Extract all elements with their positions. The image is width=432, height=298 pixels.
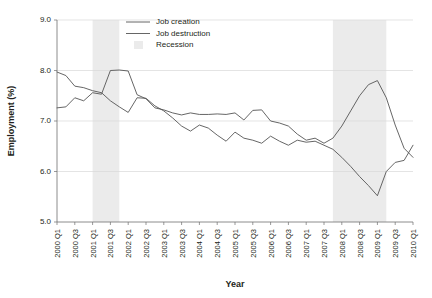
x-tick-label: 2006 Q3 xyxy=(284,229,293,258)
legend: Job creationJob destructionRecession xyxy=(126,17,210,49)
x-tick-label: 2003 Q3 xyxy=(178,229,187,258)
y-tick-label: 9.0 xyxy=(40,15,52,24)
y-tick-label: 7.0 xyxy=(40,116,52,125)
x-tick-label: 2007 Q3 xyxy=(320,229,329,258)
x-tick-label: 2000 Q1 xyxy=(53,229,62,258)
employment-line-chart: 5.06.07.08.09.0 2000 Q12000 Q32001 Q1200… xyxy=(0,0,432,298)
x-tick-label: 2010 Q1 xyxy=(409,229,418,258)
x-tick-label: 2002 Q1 xyxy=(124,229,133,258)
x-tick-label: 2008 Q3 xyxy=(356,229,365,258)
x-tick-label: 2009 Q1 xyxy=(373,229,382,258)
x-tick-label: 2009 Q3 xyxy=(391,229,400,258)
x-tick-label: 2001 Q3 xyxy=(106,229,115,258)
x-tick-label: 2006 Q1 xyxy=(267,229,276,258)
legend-swatch-recession xyxy=(134,41,143,49)
y-tick-label: 6.0 xyxy=(40,167,52,176)
x-tick-label: 2002 Q3 xyxy=(142,229,151,258)
x-tick-label: 2001 Q1 xyxy=(89,229,98,258)
x-tick-label: 2003 Q1 xyxy=(160,229,169,258)
x-tick-label: 2007 Q1 xyxy=(302,229,311,258)
legend-label: Recession xyxy=(156,40,193,49)
chart-svg: 5.06.07.08.09.0 2000 Q12000 Q32001 Q1200… xyxy=(0,0,432,298)
x-tick-label: 2004 Q1 xyxy=(195,229,204,258)
x-tick-label: 2000 Q3 xyxy=(71,229,80,258)
legend-label: Job creation xyxy=(156,17,200,26)
x-axis-title: Year xyxy=(225,279,245,289)
y-tick-label: 8.0 xyxy=(40,66,52,75)
x-tick-label: 2004 Q3 xyxy=(213,229,222,258)
x-tick-group: 2000 Q12000 Q32001 Q12001 Q32002 Q12002 … xyxy=(53,222,418,258)
x-tick-label: 2005 Q3 xyxy=(249,229,258,258)
x-tick-label: 2005 Q1 xyxy=(231,229,240,258)
x-tick-label: 2008 Q1 xyxy=(338,229,347,258)
legend-label: Job destruction xyxy=(156,29,210,38)
y-tick-label: 5.0 xyxy=(40,217,52,226)
y-axis-title: Employment (%) xyxy=(6,86,16,157)
y-tick-group: 5.06.07.08.09.0 xyxy=(40,15,57,226)
